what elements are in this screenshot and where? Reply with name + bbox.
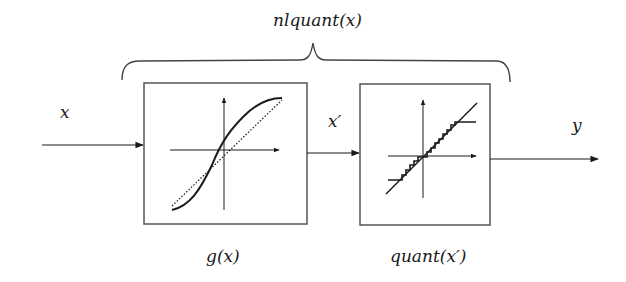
- g-block: [144, 83, 307, 224]
- diagram-canvas: [0, 0, 626, 282]
- grouping-brace: [122, 43, 510, 82]
- nlquant-title: nlquant(x): [273, 12, 362, 29]
- output-label: y: [572, 117, 582, 134]
- g-sigmoid-curve: [172, 98, 282, 210]
- quant-staircase: [388, 122, 476, 180]
- intermediate-label: x′: [328, 113, 341, 130]
- input-label: x: [60, 104, 70, 121]
- quant-caption: quant(x′): [390, 248, 466, 265]
- g-identity-line: [172, 100, 282, 206]
- g-caption: g(x): [206, 248, 240, 265]
